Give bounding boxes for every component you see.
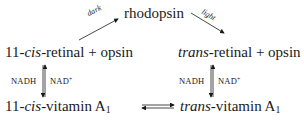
dark-arrow	[79, 19, 118, 40]
trans-retinal-opsin: trans-retinal + opsin	[178, 45, 301, 60]
left-nadh-label: NADH	[11, 77, 36, 86]
light-arrow	[191, 13, 224, 33]
cis-vitamin-a1: 11-cis-vitamin A1	[5, 99, 111, 115]
trans-vitamin-a1: trans-vitamin A1	[180, 99, 280, 115]
right-nad-label: NAD+	[218, 77, 241, 86]
cis-retinal-opsin: 11-cis-retinal + opsin	[5, 45, 133, 60]
left-nad-label: NAD+	[50, 77, 73, 86]
right-nadh-label: NADH	[179, 77, 204, 86]
